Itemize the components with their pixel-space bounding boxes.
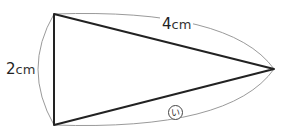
unknown-side-mark: い xyxy=(168,105,183,120)
long-side-unit: cm xyxy=(172,17,192,32)
short-side-unit: cm xyxy=(16,62,36,77)
short-side-arc xyxy=(38,14,54,125)
short-side-label: 2cm xyxy=(6,62,35,77)
triangle-diagram xyxy=(0,0,295,137)
long-side-value: 4 xyxy=(162,15,172,33)
short-side-value: 2 xyxy=(6,60,16,78)
long-side-label: 4cm xyxy=(160,17,193,32)
